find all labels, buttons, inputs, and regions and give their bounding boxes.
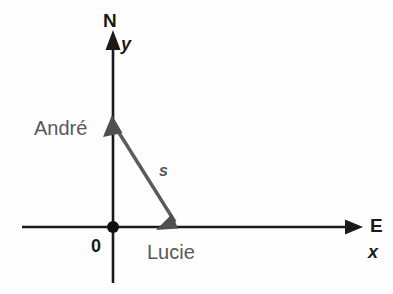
coordinate-diagram: N y E x 0 André Lucie s bbox=[0, 0, 393, 294]
y-axis-label: y bbox=[121, 35, 131, 53]
vector-arrowhead-lucie-icon bbox=[156, 214, 178, 230]
andre-label: André bbox=[34, 118, 87, 138]
vector-s-label: s bbox=[159, 163, 168, 179]
x-axis-arrowhead-icon bbox=[345, 220, 363, 235]
x-axis-label: x bbox=[368, 243, 378, 261]
origin-label: 0 bbox=[91, 237, 101, 255]
diagram-canvas bbox=[0, 0, 393, 294]
north-label: N bbox=[103, 11, 117, 30]
origin-dot-icon bbox=[107, 221, 119, 233]
y-axis-arrowhead-icon bbox=[106, 30, 121, 50]
lucie-label: Lucie bbox=[147, 242, 195, 262]
east-label: E bbox=[370, 216, 383, 235]
